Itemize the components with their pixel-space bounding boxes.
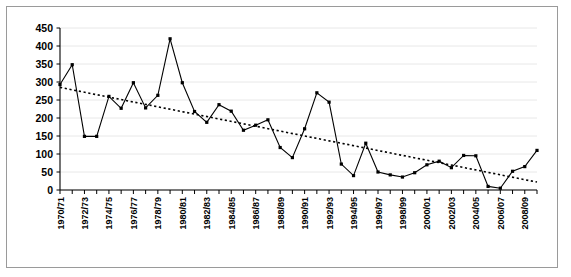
data-point-marker [327, 101, 330, 104]
data-point-marker [181, 81, 184, 84]
data-point-marker [438, 160, 441, 163]
x-tick-label: 1974/75 [104, 197, 114, 230]
data-point-marker [364, 142, 367, 145]
data-point-marker [217, 103, 220, 106]
axes [57, 28, 538, 194]
data-point-marker [205, 121, 208, 124]
data-point-marker [144, 106, 147, 109]
data-point-marker [303, 127, 306, 130]
x-tick-label: 2004/05 [471, 197, 481, 230]
data-point-marker [523, 165, 526, 168]
y-tick-label: 350 [35, 58, 53, 70]
y-tick-label: 250 [35, 94, 53, 106]
x-tick-label: 1994/95 [349, 197, 359, 230]
trendline-path [60, 87, 537, 182]
y-tick-label: 150 [35, 130, 53, 142]
x-tick-label: 1972/73 [80, 197, 90, 230]
line-chart: 050100150200250300350400450 1970/711972/… [0, 0, 571, 277]
data-point-marker [230, 110, 233, 113]
data-point-marker [120, 107, 123, 110]
x-tick-label: 1976/77 [129, 197, 139, 230]
data-series [60, 39, 537, 188]
data-point-marker [254, 124, 257, 127]
data-point-marker [340, 162, 343, 165]
data-point-marker [376, 170, 379, 173]
data-point-marker [425, 163, 428, 166]
data-point-marker [132, 81, 135, 84]
data-point-marker [193, 110, 196, 113]
x-tick-label: 2002/03 [447, 197, 457, 230]
y-tick-label: 300 [35, 76, 53, 88]
data-point-marker [71, 63, 74, 66]
data-point-marker [279, 146, 282, 149]
data-point-marker [389, 173, 392, 176]
data-point-marker [95, 135, 98, 138]
x-tick-label: 2000/01 [422, 197, 432, 230]
data-point-marker [315, 91, 318, 94]
x-tick-label: 2008/09 [520, 197, 530, 230]
x-tick-label: 1992/93 [325, 197, 335, 230]
data-point-marker [413, 171, 416, 174]
trendline [60, 87, 537, 182]
x-tick-label: 1984/85 [227, 197, 237, 230]
data-point-marker [107, 95, 110, 98]
y-tick-label: 400 [35, 40, 53, 52]
x-tick-label: 1970/71 [56, 197, 66, 230]
y-tick-label: 0 [47, 184, 53, 196]
y-tick-label: 50 [41, 166, 53, 178]
data-point-marker [401, 175, 404, 178]
x-tick-label: 1986/87 [251, 197, 261, 230]
y-axis-tick-labels: 050100150200250300350400450 [35, 22, 53, 196]
data-point-marker [352, 174, 355, 177]
y-tick-label: 450 [35, 22, 53, 34]
data-point-marker [486, 185, 489, 188]
data-point-marker [242, 129, 245, 132]
x-tick-label: 2006/07 [496, 197, 506, 230]
data-point-marker [450, 166, 453, 169]
data-point-marker [83, 135, 86, 138]
data-point-marker [58, 83, 61, 86]
series-line [60, 39, 537, 188]
data-point-marker [156, 94, 159, 97]
x-tick-label: 1980/81 [178, 197, 188, 230]
x-axis-tick-labels: 1970/711972/731974/751976/771978/791980/… [56, 197, 531, 230]
y-tick-label: 200 [35, 112, 53, 124]
data-point-marker [535, 149, 538, 152]
chart-figure: 050100150200250300350400450 1970/711972/… [0, 0, 571, 277]
data-point-markers [58, 37, 538, 190]
x-tick-label: 1996/97 [374, 197, 384, 230]
data-point-marker [291, 156, 294, 159]
y-tick-label: 100 [35, 148, 53, 160]
x-tick-label: 1990/91 [300, 197, 310, 230]
data-point-marker [474, 154, 477, 157]
gridlines [60, 28, 537, 190]
data-point-marker [511, 170, 514, 173]
data-point-marker [266, 118, 269, 121]
x-tick-label: 1982/83 [202, 197, 212, 230]
x-tick-label: 1998/99 [398, 197, 408, 230]
x-tick-label: 1988/89 [276, 197, 286, 230]
x-tick-label: 1978/79 [153, 197, 163, 230]
data-point-marker [462, 154, 465, 157]
data-point-marker [499, 187, 502, 190]
data-point-marker [168, 37, 171, 40]
